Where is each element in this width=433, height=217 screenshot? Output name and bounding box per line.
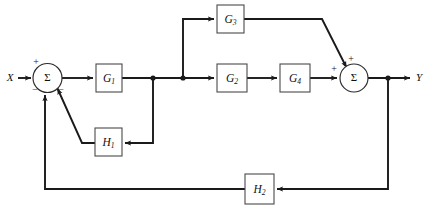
sign-right-g3-plus: +	[348, 53, 354, 64]
wire-branch-to-h1	[125, 78, 153, 143]
block-diagram-svg: G1 G2 G3 G4 H1 H2 Σ + − −	[0, 0, 433, 217]
wire-branch-to-g3	[183, 19, 214, 78]
summing-junction-left[interactable]: Σ + − −	[32, 56, 64, 95]
sign-left-input-plus: +	[33, 56, 39, 67]
block-g1[interactable]: G1	[96, 64, 122, 92]
wire-g3-to-sum	[244, 19, 347, 68]
block-h2[interactable]: H2	[245, 174, 274, 204]
wire-h1-to-sum	[58, 89, 96, 144]
block-g2[interactable]: G2	[217, 64, 247, 92]
block-diagram-canvas: G1 G2 G3 G4 H1 H2 Σ + − −	[0, 0, 433, 217]
junction-dot-g3-branch	[180, 75, 185, 80]
block-g4[interactable]: G4	[280, 64, 310, 92]
sign-right-g4-plus: +	[331, 63, 337, 74]
sign-left-h1-minus: −	[58, 84, 64, 95]
summing-junction-right-symbol: Σ	[351, 71, 357, 83]
wire-output-to-h2	[277, 78, 388, 189]
junction-dot-output-feedback	[385, 75, 390, 80]
block-h1[interactable]: H1	[95, 128, 122, 156]
sign-left-h2-minus: −	[32, 84, 38, 95]
summing-junction-left-symbol: Σ	[44, 71, 50, 83]
block-g3[interactable]: G3	[217, 5, 244, 33]
wire-layer	[18, 19, 410, 189]
output-label-y: Y	[416, 71, 424, 83]
summing-junction-right[interactable]: Σ + +	[331, 53, 368, 92]
input-label-x: X	[6, 71, 15, 83]
junction-dot-g1-output	[150, 75, 155, 80]
wire-h2-to-sum	[45, 95, 245, 189]
